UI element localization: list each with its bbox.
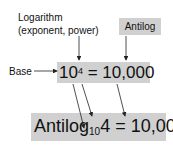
- result-arrow: [117, 84, 125, 116]
- exponent-to-arg-arrow: [82, 84, 92, 116]
- arrows: [0, 0, 173, 149]
- base-to-subscript-arrow: [73, 84, 84, 128]
